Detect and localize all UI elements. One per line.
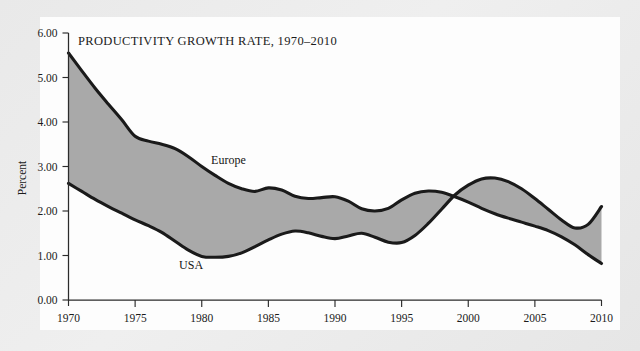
band-fill — [69, 53, 602, 263]
x-tick-label: 1995 — [390, 312, 413, 324]
x-tick-label: 1990 — [324, 312, 347, 324]
x-tick-label: 1985 — [257, 312, 280, 324]
shaded-band — [69, 53, 602, 263]
x-tick-label: 1970 — [57, 312, 80, 324]
y-tick-label: 0.00 — [37, 294, 57, 306]
x-tick-label: 1975 — [124, 312, 147, 324]
y-axis-title: Percent — [16, 160, 28, 195]
productivity-growth-chart: 0.001.002.003.004.005.006.00 19701975198… — [0, 0, 640, 351]
y-tick-label: 5.00 — [37, 72, 57, 84]
y-tick-label: 1.00 — [37, 250, 57, 262]
y-tick-label: 3.00 — [37, 161, 57, 173]
series-annotation-europe: Europe — [211, 153, 246, 167]
y-tick-label: 6.00 — [37, 27, 57, 39]
x-tick-marks — [69, 300, 602, 307]
chart-title: PRODUCTIVITY GROWTH RATE, 1970–2010 — [78, 34, 337, 48]
x-tick-label: 2000 — [457, 312, 480, 324]
series-annotation-usa: USA — [179, 258, 203, 272]
y-tick-label: 4.00 — [37, 116, 57, 128]
y-tick-label: 2.00 — [37, 205, 57, 217]
x-tick-labels: 197019751980198519901995200020052010 — [57, 312, 613, 324]
x-tick-label: 2010 — [590, 312, 613, 324]
figure-root: 0.001.002.003.004.005.006.00 19701975198… — [0, 0, 640, 351]
y-tick-marks — [63, 33, 69, 300]
x-tick-label: 1980 — [190, 312, 213, 324]
x-tick-label: 2005 — [523, 312, 546, 324]
y-tick-labels: 0.001.002.003.004.005.006.00 — [37, 27, 57, 306]
